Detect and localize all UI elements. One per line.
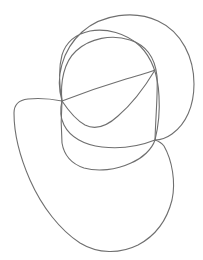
line-drawing-svg (0, 0, 203, 260)
drawing-canvas (0, 0, 203, 260)
background-rect (0, 0, 203, 260)
